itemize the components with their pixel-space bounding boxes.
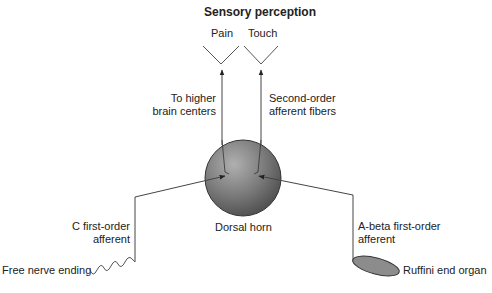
touch-v-icon [244,46,278,64]
ruffini-label: Ruffini end organ [403,264,487,277]
touch-label: Touch [248,27,277,40]
ruffini-end-organ-icon [351,252,402,280]
abeta-afferent-label: A-beta first-order afferent [358,220,441,246]
pain-label: Pain [211,27,233,40]
c-afferent-label: C first-order afferent [60,220,130,246]
dorsal-horn-label: Dorsal horn [215,221,272,234]
neural-pathway-diagram [0,0,492,293]
to-higher-label: To higher brain centers [150,92,216,118]
free-nerve-ending-label: Free nerve ending [2,264,91,277]
free-nerve-ending-icon [90,257,135,274]
pain-v-icon [203,46,239,64]
diagram-title: Sensory perception [204,6,316,19]
second-order-label: Second-order afferent fibers [269,92,336,118]
